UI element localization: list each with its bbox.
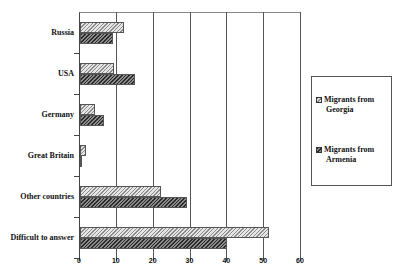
- legend-label-line2: Georgia: [326, 105, 354, 114]
- gridline: [116, 12, 117, 258]
- x-tick-label: 10: [104, 257, 128, 264]
- x-tick-label: 40: [214, 257, 238, 264]
- georgia-swatch-icon: [316, 97, 322, 103]
- y-tick: [74, 258, 79, 259]
- x-tick-label: 50: [251, 257, 275, 264]
- legend-item-armenia: Migrants from Armenia: [316, 145, 390, 165]
- y-tick: [74, 53, 79, 54]
- bar-georgia: [80, 227, 269, 238]
- category-label: USA: [58, 69, 74, 78]
- gridline: [226, 12, 227, 258]
- category-label: Other countries: [20, 192, 74, 201]
- legend: Migrants from Georgia Migrants from Arme…: [311, 76, 392, 186]
- legend-label-line1: Migrants from: [324, 95, 374, 104]
- bar-armenia: [80, 74, 135, 85]
- legend-label-line2: Armenia: [326, 155, 356, 164]
- bar-georgia: [80, 104, 95, 115]
- gridline: [190, 12, 191, 258]
- category-label: Difficult to answer: [10, 233, 74, 242]
- bar-georgia: [80, 186, 161, 197]
- bar-armenia: [80, 156, 82, 167]
- gridline: [300, 12, 301, 258]
- bar-georgia: [80, 145, 86, 156]
- y-tick: [74, 94, 79, 95]
- bar-armenia: [80, 197, 187, 208]
- gridline: [153, 12, 154, 258]
- bar-armenia: [80, 115, 104, 126]
- bar-armenia: [80, 238, 227, 249]
- x-tick-label: 60: [288, 257, 312, 264]
- gridline: [263, 12, 264, 258]
- x-tick-label: 30: [178, 257, 202, 264]
- legend-item-georgia: Migrants from Georgia: [316, 95, 390, 115]
- bar-georgia: [80, 22, 124, 33]
- armenia-swatch-icon: [316, 147, 322, 153]
- y-tick: [74, 176, 79, 177]
- y-tick: [74, 217, 79, 218]
- y-tick: [74, 135, 79, 136]
- bar-armenia: [80, 33, 113, 44]
- legend-label-line1: Migrants from: [324, 145, 374, 154]
- bar-georgia: [80, 63, 114, 74]
- category-label: Germany: [42, 110, 74, 119]
- category-label: Great Britain: [28, 151, 74, 160]
- x-tick-label: 0: [67, 257, 91, 264]
- category-label: Russia: [51, 28, 74, 37]
- x-tick-label: 20: [141, 257, 165, 264]
